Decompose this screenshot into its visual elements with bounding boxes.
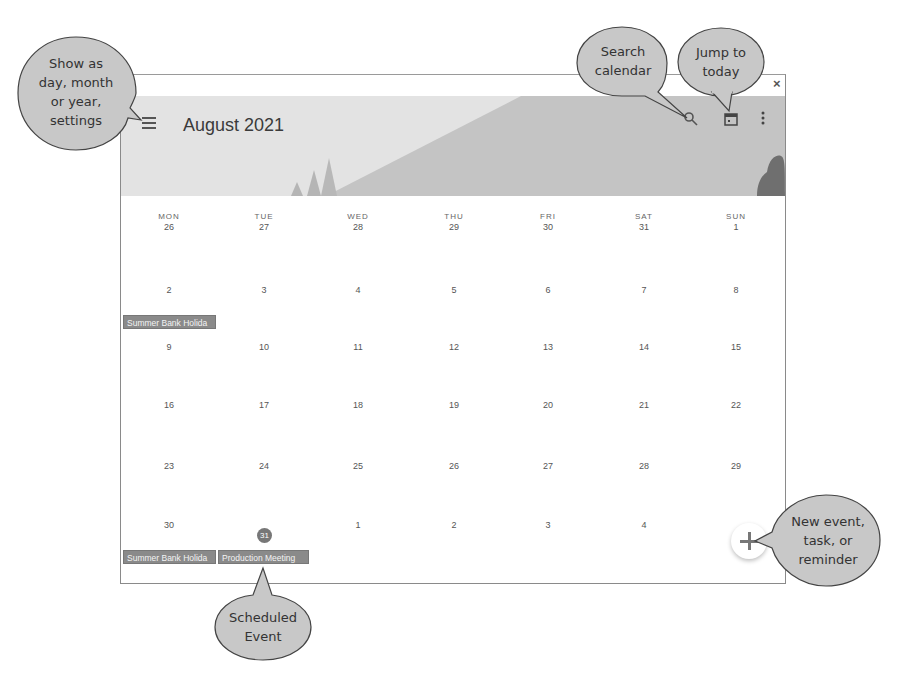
callout-menu-text: Show asday, monthor year,settings: [20, 54, 132, 130]
callout-fab-text: New event,task, orreminder: [780, 512, 876, 569]
callout-search-text: Searchcalendar: [578, 42, 668, 80]
callout-shapes: [0, 0, 916, 676]
callout-event-text: ScheduledEvent: [215, 608, 311, 646]
callout-today-text: Jump totoday: [678, 43, 764, 81]
